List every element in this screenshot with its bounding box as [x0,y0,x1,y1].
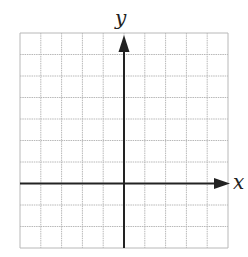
y-axis-label: y [115,8,126,28]
axes [20,35,230,248]
x-axis-label: x [233,172,244,192]
coordinate-grid [0,0,248,257]
y-axis-arrow-icon [119,35,130,52]
